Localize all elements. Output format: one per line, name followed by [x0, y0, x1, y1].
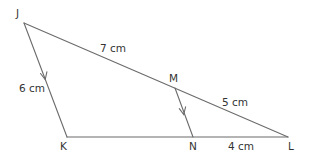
point-label-l: L — [288, 141, 294, 152]
segment-jl — [24, 23, 288, 137]
measurement-nl: 4 cm — [228, 141, 254, 152]
measurement-jm: 7 cm — [100, 43, 126, 54]
geometry-diagram: J K L M N 6 cm 7 cm 5 cm 4 cm — [0, 0, 310, 161]
point-label-m: M — [169, 73, 178, 84]
triangle-figure — [0, 0, 310, 161]
point-label-n: N — [189, 141, 197, 152]
point-label-k: K — [60, 141, 67, 152]
point-label-j: J — [16, 8, 19, 19]
measurement-jk: 6 cm — [19, 83, 45, 94]
measurement-ml: 5 cm — [222, 97, 248, 108]
